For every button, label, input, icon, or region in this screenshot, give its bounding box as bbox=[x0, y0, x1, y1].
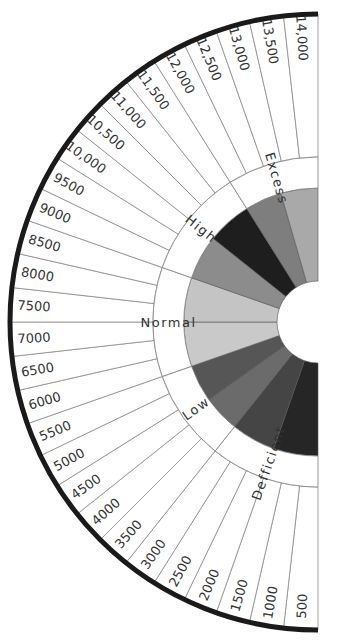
dial-chart: 5001000150020002500300035004000450050005… bbox=[0, 0, 341, 644]
value-label: 14,000 bbox=[293, 15, 311, 61]
category-label-normal: Normal bbox=[140, 315, 196, 330]
value-label: 7500 bbox=[17, 298, 51, 315]
value-label: 7000 bbox=[17, 330, 51, 347]
value-label: 500 bbox=[294, 593, 310, 619]
